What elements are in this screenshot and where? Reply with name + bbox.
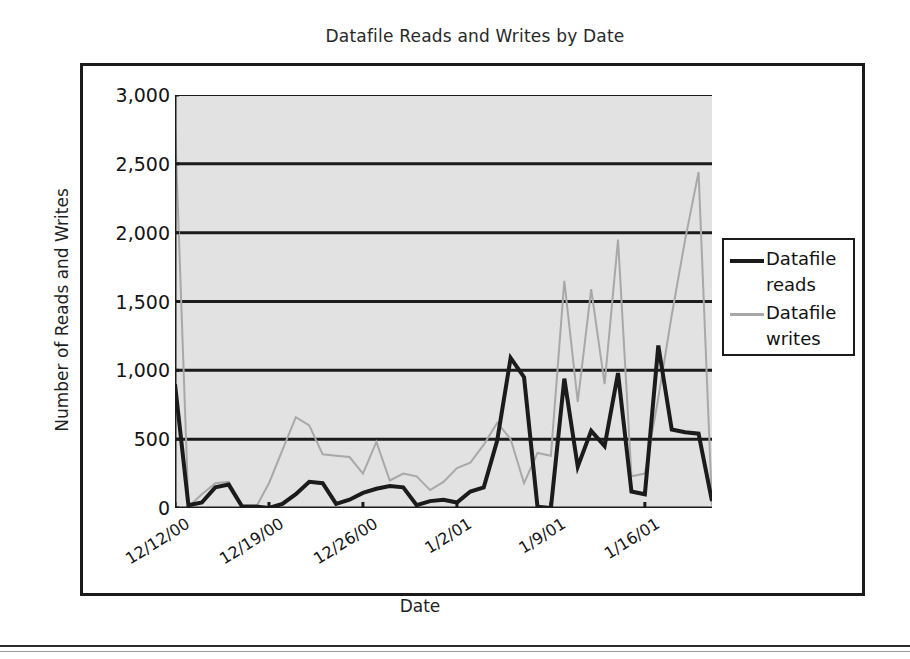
page-title: Datafile Reads and Writes by Date (80, 26, 870, 46)
y-tick-label: 0 (86, 497, 170, 519)
x-tick-label: 1/2/01 (392, 514, 475, 576)
line-chart-canvas (175, 95, 712, 508)
x-tick-label: 1/9/01 (486, 514, 569, 576)
chart-legend: Datafile readsDatafile writes (722, 238, 855, 356)
legend-label: Datafile writes (766, 300, 852, 352)
y-tick-label: 3,000 (86, 84, 170, 106)
legend-label: Datafile reads (766, 246, 852, 298)
page-divider-thick (0, 645, 910, 647)
legend-line-swatch (730, 313, 764, 316)
x-axis-title: Date (100, 596, 740, 616)
y-axis-tick-labels: 05001,0001,5002,0002,5003,000 (80, 95, 170, 508)
x-tick-label: 1/16/01 (580, 514, 663, 576)
x-tick-label: 12/26/00 (298, 514, 381, 576)
y-tick-label: 500 (86, 428, 170, 450)
y-tick-label: 2,000 (86, 222, 170, 244)
page-divider-thin (0, 651, 910, 652)
y-tick-label: 2,500 (86, 153, 170, 175)
legend-line-swatch (730, 259, 764, 263)
y-tick-label: 1,000 (86, 359, 170, 381)
y-tick-label: 1,500 (86, 291, 170, 313)
plot-area (175, 95, 712, 508)
x-tick-label: 12/19/00 (204, 514, 287, 576)
y-axis-title: Number of Reads and Writes (52, 140, 72, 480)
x-axis-tick-labels: 12/12/0012/19/0012/26/001/2/011/9/011/16… (175, 508, 712, 594)
series-line (175, 125, 712, 508)
figure-page: Datafile Reads and Writes by Date Number… (0, 0, 910, 659)
